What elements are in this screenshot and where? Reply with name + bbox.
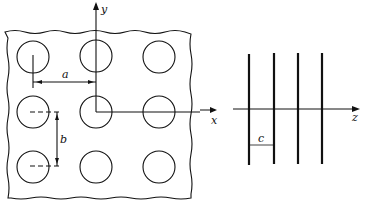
- spacing-a-label: a: [62, 68, 69, 81]
- x-axis-label: x: [211, 114, 218, 127]
- y-axis-arrow-icon: [93, 2, 99, 10]
- diagram: y a b x z c: [0, 0, 367, 206]
- rod-circle: [143, 41, 175, 73]
- rod-circle: [17, 151, 49, 183]
- z-axis-label: z: [351, 111, 358, 124]
- spacing-c-label: c: [258, 132, 264, 145]
- rod-circle: [143, 151, 175, 183]
- rod-circle: [80, 151, 112, 183]
- y-axis-label: y: [100, 3, 108, 16]
- spacing-b-label: b: [60, 133, 67, 146]
